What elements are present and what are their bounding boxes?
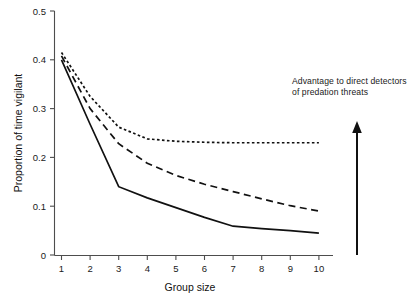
y-axis: 0.5 0.4 0.3 0.2 0.1 0 Proportion of time… xyxy=(12,6,55,261)
x-axis-title: Group size xyxy=(165,281,216,293)
y-tick-label-0.5: 0.5 xyxy=(33,6,46,17)
upward-advantage-arrow xyxy=(352,121,362,255)
y-tick-label-0.3: 0.3 xyxy=(33,103,46,114)
x-tick-label-6: 6 xyxy=(202,263,207,274)
x-tick-label-10: 10 xyxy=(314,263,325,274)
x-tick-label-7: 7 xyxy=(230,263,235,274)
x-tick-label-4: 4 xyxy=(145,263,150,274)
y-tick-label-0: 0 xyxy=(41,250,46,261)
series-group xyxy=(62,52,319,233)
x-tick-label-2: 2 xyxy=(87,263,92,274)
y-tick-label-0.1: 0.1 xyxy=(33,201,46,212)
series-dotted-upper xyxy=(62,52,319,142)
series-solid-lower xyxy=(62,60,319,233)
x-tick-label-3: 3 xyxy=(116,263,121,274)
y-tick-label-0.2: 0.2 xyxy=(33,152,46,163)
arrow-head-icon xyxy=(352,121,362,133)
x-tick-label-5: 5 xyxy=(173,263,178,274)
y-axis-title: Proportion of time vigilant xyxy=(12,74,24,193)
y-tick-label-0.4: 0.4 xyxy=(33,54,46,65)
x-tick-label-1: 1 xyxy=(59,263,64,274)
x-tick-label-8: 8 xyxy=(259,263,264,274)
x-axis: 1 2 3 4 5 6 7 8 9 10 Group size xyxy=(55,256,334,294)
vigilance-group-size-figure: 0.5 0.4 0.3 0.2 0.1 0 Proportion of time… xyxy=(0,0,414,302)
line-chart: 0.5 0.4 0.3 0.2 0.1 0 Proportion of time… xyxy=(0,0,414,302)
x-tick-label-9: 9 xyxy=(288,263,293,274)
series-dashed-middle xyxy=(62,56,319,211)
advantage-annotation: Advantage to direct detectors of predati… xyxy=(292,76,414,99)
